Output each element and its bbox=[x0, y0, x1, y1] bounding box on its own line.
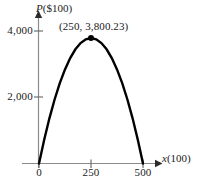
y-tick-label-2000: 2,000 bbox=[4, 90, 33, 102]
vertex-point-marker bbox=[88, 35, 94, 41]
x-tick-label-250: 250 bbox=[78, 166, 104, 178]
x-tick-label-500: 500 bbox=[130, 166, 156, 178]
x-axis-units: (100) bbox=[167, 152, 191, 164]
vertex-annotation-label: (250, 3,800.23) bbox=[59, 20, 128, 32]
y-tick-label-4000: 4,000 bbox=[4, 24, 33, 36]
y-axis-variable: P bbox=[36, 2, 43, 14]
parabola-figure: P($100) x(100) 4,000 2,000 0 250 500 (25… bbox=[0, 0, 198, 184]
y-axis-units: ($100) bbox=[43, 2, 72, 14]
y-axis-title: P($100) bbox=[36, 2, 72, 14]
profit-parabola-curve bbox=[39, 38, 143, 164]
x-tick-label-0: 0 bbox=[31, 166, 47, 178]
x-axis-title: x(100) bbox=[162, 152, 191, 164]
